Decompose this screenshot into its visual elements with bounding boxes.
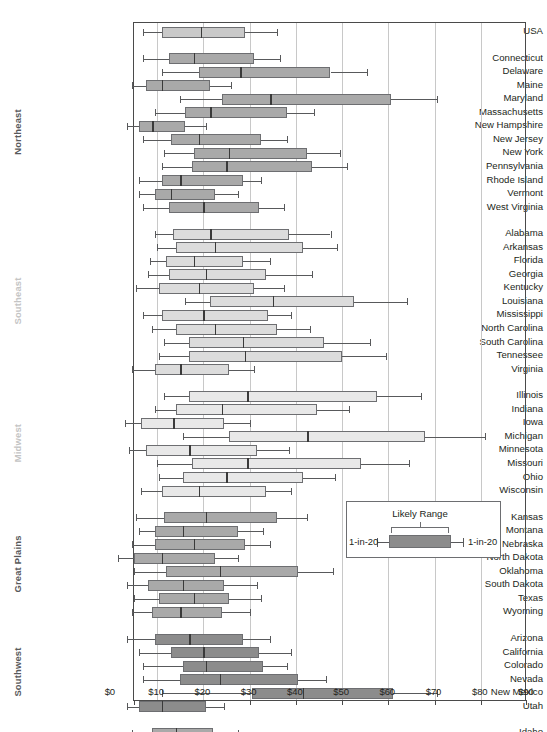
- boxplot-row[interactable]: [134, 25, 525, 39]
- high-whisker: [377, 396, 421, 397]
- boxplot-row[interactable]: [134, 79, 525, 93]
- boxplot-row[interactable]: [134, 471, 525, 485]
- high-whisker: [307, 153, 339, 154]
- median-line: [222, 404, 223, 415]
- boxplot-row[interactable]: [134, 443, 525, 457]
- boxplot-row[interactable]: [134, 578, 525, 592]
- high-whisker-cap: [386, 353, 387, 360]
- low-whisker-cap: [155, 231, 156, 238]
- boxplot-row[interactable]: [134, 92, 525, 106]
- low-whisker-cap: [143, 29, 144, 36]
- region-label-nw: NW: [12, 726, 24, 732]
- x-axis-label: $30: [241, 686, 257, 697]
- low-whisker-cap: [141, 488, 142, 495]
- boxplot-row[interactable]: [134, 605, 525, 619]
- boxplot-row[interactable]: [134, 52, 525, 66]
- low-whisker-cap: [125, 420, 126, 427]
- boxplot-row[interactable]: [134, 700, 525, 714]
- boxplot-row[interactable]: [134, 457, 525, 471]
- boxplot-row[interactable]: [134, 430, 525, 444]
- high-whisker-cap: [263, 528, 264, 535]
- likely-range-box: [189, 391, 376, 402]
- boxplot-row[interactable]: [134, 336, 525, 350]
- low-whisker-cap: [143, 676, 144, 683]
- boxplot-row[interactable]: [134, 281, 525, 295]
- high-whisker-cap: [224, 703, 225, 710]
- boxplot-row[interactable]: [134, 106, 525, 120]
- boxplot-row[interactable]: [134, 565, 525, 579]
- high-whisker-cap: [349, 406, 350, 413]
- boxplot-row[interactable]: [134, 322, 525, 336]
- low-whisker: [132, 370, 155, 371]
- likely-range-box: [162, 486, 266, 497]
- high-whisker-cap: [250, 609, 251, 616]
- high-whisker-cap: [337, 244, 338, 251]
- low-whisker-cap: [127, 582, 128, 589]
- boxplot-row[interactable]: [134, 119, 525, 133]
- likely-range-box: [169, 202, 259, 213]
- boxplot-row[interactable]: [134, 187, 525, 201]
- low-whisker-cap: [180, 96, 181, 103]
- likely-range-box: [171, 134, 261, 145]
- low-whisker: [143, 59, 168, 60]
- boxplot-row[interactable]: [134, 174, 525, 188]
- boxplot-row[interactable]: [134, 65, 525, 79]
- boxplot-row[interactable]: [134, 254, 525, 268]
- x-axis-label: $40: [287, 686, 303, 697]
- median-line: [206, 269, 207, 280]
- likely-range-box: [189, 337, 323, 348]
- boxplot-row[interactable]: [134, 659, 525, 673]
- likely-range-box: [210, 296, 353, 307]
- boxplot-row[interactable]: [134, 268, 525, 282]
- boxplot-row[interactable]: [134, 295, 525, 309]
- likely-range-box: [152, 728, 212, 732]
- boxplot-row[interactable]: [134, 389, 525, 403]
- boxplot-row[interactable]: [134, 646, 525, 660]
- median-line: [220, 566, 221, 577]
- boxplot-row[interactable]: [134, 726, 525, 732]
- boxplot-row[interactable]: [134, 160, 525, 174]
- likely-range-box: [176, 404, 317, 415]
- boxplot-row[interactable]: [134, 133, 525, 147]
- likely-range-box: [134, 553, 215, 564]
- low-whisker-cap: [162, 69, 163, 76]
- median-line: [229, 148, 230, 159]
- low-whisker-cap: [139, 528, 140, 535]
- boxplot-row[interactable]: [134, 227, 525, 241]
- boxplot-row[interactable]: [134, 632, 525, 646]
- boxplot-row[interactable]: [134, 201, 525, 215]
- high-whisker: [259, 208, 284, 209]
- boxplot-row[interactable]: [134, 673, 525, 687]
- median-line: [240, 67, 241, 78]
- low-whisker-cap: [143, 312, 144, 319]
- low-whisker-cap: [183, 433, 184, 440]
- legend-label-right: 1-in-20: [468, 536, 497, 547]
- boxplot-row[interactable]: [134, 241, 525, 255]
- boxplot-row[interactable]: [134, 686, 525, 700]
- likely-range-box: [164, 512, 277, 523]
- high-whisker-cap: [280, 55, 281, 62]
- boxplot-row[interactable]: [134, 592, 525, 606]
- boxplot-row[interactable]: [134, 403, 525, 417]
- boxplot-row[interactable]: [134, 349, 525, 363]
- high-whisker-cap: [270, 541, 271, 548]
- boxplot-row[interactable]: [134, 484, 525, 498]
- low-whisker-cap: [132, 541, 133, 548]
- boxplot-row[interactable]: [134, 308, 525, 322]
- boxplot-row[interactable]: [134, 416, 525, 430]
- likely-range-box: [194, 148, 307, 159]
- likely-range-box: [155, 364, 229, 375]
- low-whisker-cap: [152, 326, 153, 333]
- low-whisker-cap: [185, 298, 186, 305]
- likely-range-box: [166, 566, 298, 577]
- median-line: [247, 458, 248, 469]
- low-whisker: [127, 639, 155, 640]
- low-whisker-cap: [164, 393, 165, 400]
- boxplot-row[interactable]: [134, 363, 525, 377]
- boxplot-row[interactable]: [134, 146, 525, 160]
- x-axis-label: $0: [105, 686, 115, 697]
- median-line: [203, 310, 204, 321]
- high-whisker: [224, 585, 256, 586]
- high-whisker: [229, 370, 254, 371]
- likely-range-box: [169, 53, 255, 64]
